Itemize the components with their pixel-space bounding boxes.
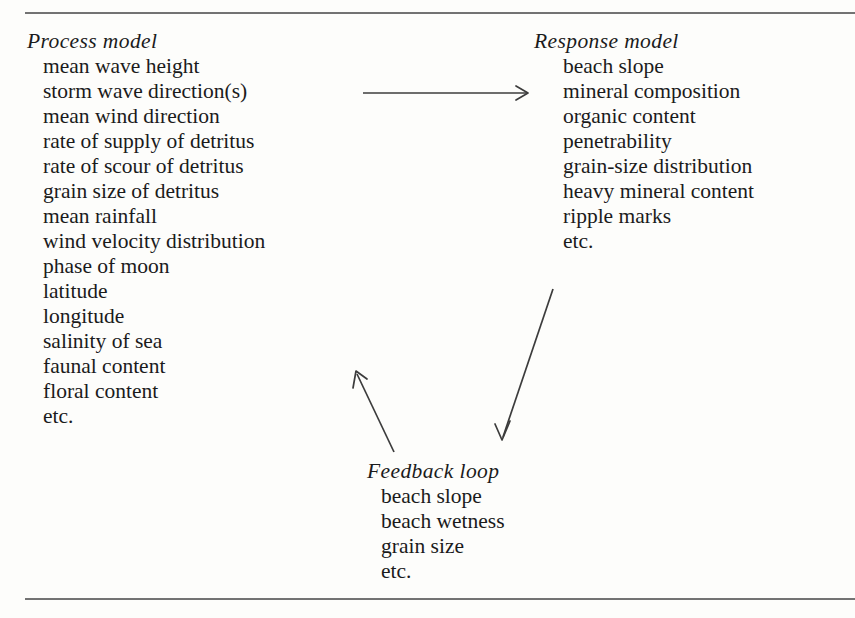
list-item: grain size: [381, 534, 505, 559]
list-item: latitude: [43, 279, 265, 304]
list-item: wind velocity distribution: [43, 229, 265, 254]
list-item: mineral composition: [563, 79, 754, 104]
list-item: beach slope: [563, 54, 754, 79]
list-item: phase of moon: [43, 254, 265, 279]
list-item: storm wave direction(s): [43, 79, 265, 104]
list-item: rate of scour of detritus: [43, 154, 265, 179]
list-item: beach slope: [381, 484, 505, 509]
process-to-response-arrow: [363, 86, 528, 100]
process-model-heading: Process model: [27, 29, 265, 54]
feedback-loop-item-list: beach slope beach wetness grain size etc…: [367, 484, 505, 584]
list-item: beach wetness: [381, 509, 505, 534]
figure-container: Process model mean wave height storm wav…: [0, 0, 855, 618]
list-item: grain-size distribution: [563, 154, 754, 179]
response-model-item-list: beach slope mineral composition organic …: [534, 54, 754, 254]
feedback-loop-heading: Feedback loop: [367, 459, 505, 484]
feedback-loop-block: Feedback loop beach slope beach wetness …: [367, 459, 505, 584]
list-item: grain size of detritus: [43, 179, 265, 204]
list-item: ripple marks: [563, 204, 754, 229]
top-horizontal-rule: [25, 12, 855, 14]
list-item: heavy mineral content: [563, 179, 754, 204]
response-model-heading: Response model: [534, 29, 754, 54]
list-item: etc.: [563, 229, 754, 254]
list-item: etc.: [381, 559, 505, 584]
process-model-item-list: mean wave height storm wave direction(s)…: [27, 54, 265, 429]
response-to-feedback-arrow: [495, 289, 553, 440]
process-model-block: Process model mean wave height storm wav…: [27, 29, 265, 429]
list-item: rate of supply of detritus: [43, 129, 265, 154]
list-item: organic content: [563, 104, 754, 129]
list-item: floral content: [43, 379, 265, 404]
list-item: mean wind direction: [43, 104, 265, 129]
list-item: faunal content: [43, 354, 265, 379]
list-item: salinity of sea: [43, 329, 265, 354]
bottom-horizontal-rule: [25, 598, 855, 600]
list-item: longitude: [43, 304, 265, 329]
list-item: penetrability: [563, 129, 754, 154]
list-item: mean rainfall: [43, 204, 265, 229]
response-model-block: Response model beach slope mineral compo…: [534, 29, 754, 254]
feedback-to-process-arrow: [353, 371, 394, 452]
list-item: mean wave height: [43, 54, 265, 79]
list-item: etc.: [43, 404, 265, 429]
